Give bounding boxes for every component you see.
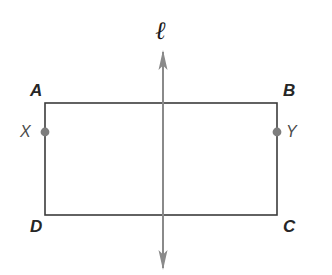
vertex-label-a: A <box>30 82 42 99</box>
point-marker-x <box>41 128 50 137</box>
point-label-y: Y <box>286 124 297 140</box>
vertex-label-d: D <box>30 218 42 235</box>
point-marker-y <box>273 128 282 137</box>
line-label-ell: ℓ <box>155 18 165 43</box>
geometry-figure: A B C D X Y ℓ <box>0 0 332 275</box>
vertex-label-c: C <box>283 218 295 235</box>
rectangle-abcd <box>45 103 277 215</box>
vertex-label-b: B <box>283 82 295 99</box>
point-label-x: X <box>20 124 31 140</box>
